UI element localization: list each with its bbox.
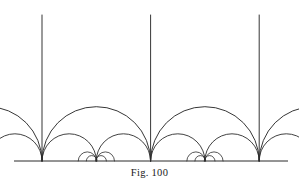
hyperbolic-tessellation-diagram [0, 0, 299, 187]
diagram-background [0, 0, 299, 187]
figure-caption: Fig. 100 [0, 166, 299, 179]
figure-container: Fig. 100 [0, 0, 299, 187]
